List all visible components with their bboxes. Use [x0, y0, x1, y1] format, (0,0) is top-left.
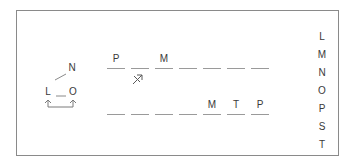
top-slot-4: [179, 68, 197, 69]
top-slot-1: [107, 68, 125, 69]
bottom-slot-3: [155, 114, 173, 115]
key-letter-2: M: [315, 50, 329, 60]
key-letter-7: T: [315, 140, 329, 150]
top-slot-5: [203, 68, 221, 69]
top-slot-7: [251, 68, 269, 69]
top-slot-6: [227, 68, 245, 69]
bottom-slot-5: [203, 114, 221, 115]
bottom-slot-7: [251, 114, 269, 115]
node-l: L: [45, 87, 51, 97]
bottom-slot-2: [131, 114, 149, 115]
connector-line-l-n: [55, 74, 66, 80]
bottom-slot-label-5: M: [203, 100, 221, 110]
bottom-slot-4: [179, 114, 197, 115]
bottom-slot-label-7: P: [251, 100, 269, 110]
bottom-slot-label-6: T: [227, 100, 245, 110]
bottom-slot-1: [107, 114, 125, 115]
node-o: O: [69, 87, 77, 97]
node-n: N: [68, 63, 75, 73]
crossed-arrow-icon: [133, 75, 142, 84]
key-letter-6: S: [315, 122, 329, 132]
key-letter-3: N: [315, 68, 329, 78]
key-letter-4: O: [315, 86, 329, 96]
key-letter-5: P: [315, 104, 329, 114]
top-slot-3: [155, 68, 173, 69]
bracket-arrows: [45, 100, 76, 107]
bottom-slot-6: [227, 114, 245, 115]
key-letter-1: L: [315, 32, 329, 42]
top-slot-label-1: P: [107, 54, 125, 64]
top-slot-label-3: M: [155, 54, 173, 64]
top-slot-2: [131, 68, 149, 69]
relationship-lines: [0, 0, 354, 167]
